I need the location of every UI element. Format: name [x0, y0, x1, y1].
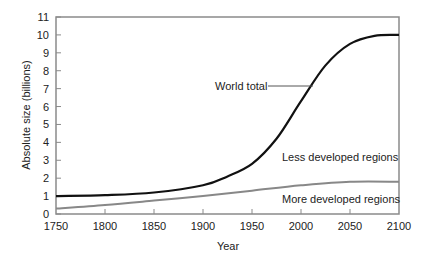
y-tick-label: 8 — [43, 65, 49, 77]
x-tick-label: 1950 — [240, 220, 264, 232]
y-tick-label: 11 — [38, 11, 49, 23]
x-tick-label: 1750 — [44, 220, 68, 232]
x-tick-label: 2100 — [387, 220, 411, 232]
y-tick-label: 5 — [43, 118, 49, 130]
y-tick-label: 9 — [43, 47, 49, 59]
x-tick-label: 1800 — [93, 220, 117, 232]
y-tick-label: 7 — [43, 83, 49, 95]
x-axis: 17501800185019001950200020502100 — [44, 209, 411, 232]
y-tick-label: 10 — [37, 29, 49, 41]
y-tick-label: 4 — [43, 136, 49, 148]
x-tick-label: 1850 — [142, 220, 166, 232]
x-tick-label: 2050 — [338, 220, 362, 232]
more-developed-label: More developed regions — [282, 193, 401, 205]
y-tick-label: 6 — [43, 101, 49, 113]
y-axis: 01234567891011 — [37, 11, 61, 220]
chart: 01234567891011 1750180018501900195020002… — [0, 0, 427, 270]
less-developed-label: Less developed regions — [282, 151, 399, 163]
y-axis-title: Absolute size (billions) — [20, 60, 32, 169]
world-total-label: World total — [215, 80, 267, 92]
world-total-line — [56, 35, 399, 196]
y-tick-label: 0 — [43, 208, 49, 220]
x-tick-label: 1900 — [191, 220, 215, 232]
y-tick-label: 2 — [43, 172, 49, 184]
x-tick-label: 2000 — [289, 220, 313, 232]
x-axis-title: Year — [217, 240, 240, 252]
y-tick-label: 1 — [43, 190, 49, 202]
y-tick-label: 3 — [43, 154, 49, 166]
